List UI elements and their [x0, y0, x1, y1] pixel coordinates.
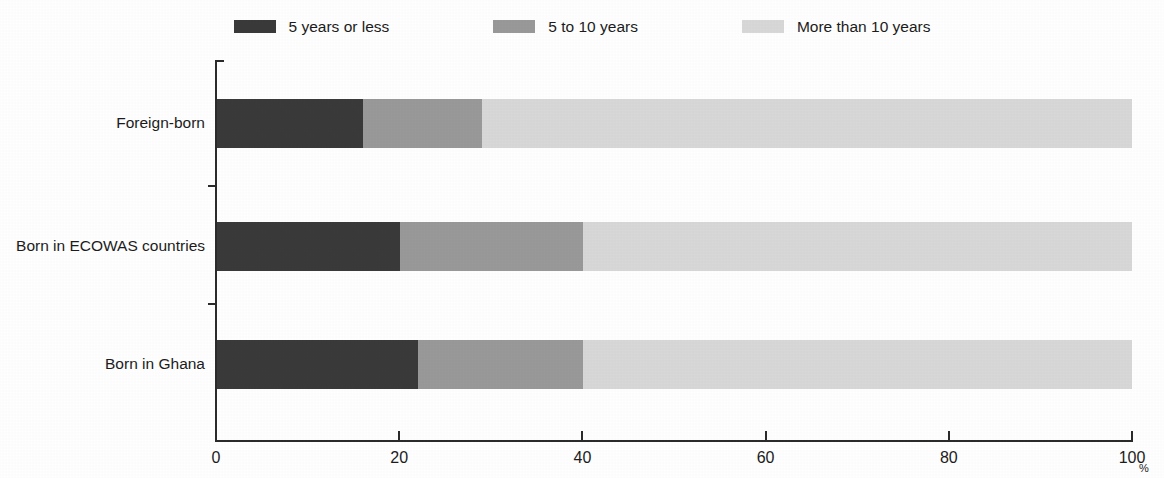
bar-track[interactable] [217, 99, 1132, 148]
plot-area: Foreign-born Born in ECOWAS countries Bo… [0, 0, 1164, 478]
axis-unit-percent: % [1139, 462, 1149, 474]
bar-segment[interactable] [217, 222, 400, 271]
category-label-born-in-ecowas-countries: Born in ECOWAS countries [0, 237, 205, 255]
bar-track[interactable] [217, 222, 1132, 271]
bar-segment[interactable] [482, 99, 1132, 148]
bar-segment[interactable] [217, 340, 418, 389]
category-label-foreign-born: Foreign-born [0, 114, 205, 132]
x-axis-tick [948, 431, 950, 441]
x-axis-tick [398, 431, 400, 441]
bar-segment[interactable] [217, 99, 363, 148]
x-axis-tick [765, 431, 767, 441]
bar-segment[interactable] [418, 340, 583, 389]
y-axis-minor-tick-1 [208, 185, 216, 187]
bar-segment[interactable] [400, 222, 583, 271]
bar-row-born-in-ecowas-countries [217, 222, 1132, 271]
x-axis-tick-label: 80 [940, 448, 958, 467]
bar-row-born-in-ghana [217, 340, 1132, 389]
stacked-bar-chart: 5 years or less 5 to 10 years More than … [0, 0, 1164, 478]
category-label-born-in-ghana: Born in Ghana [0, 355, 205, 373]
bar-row-foreign-born [217, 99, 1132, 148]
bar-segment[interactable] [583, 340, 1132, 389]
x-axis-tick-label: 60 [757, 448, 775, 467]
x-axis-tick-label: 20 [390, 448, 408, 467]
bar-track[interactable] [217, 340, 1132, 389]
y-axis-minor-tick-2 [208, 303, 216, 305]
x-axis-line [215, 440, 1133, 442]
x-axis-tick-label: 40 [573, 448, 591, 467]
bar-segment[interactable] [363, 99, 482, 148]
bar-segment[interactable] [583, 222, 1132, 271]
x-axis-end-cap [1131, 431, 1133, 442]
x-axis-tick [581, 431, 583, 441]
x-axis-tick-label: 0 [212, 448, 221, 467]
